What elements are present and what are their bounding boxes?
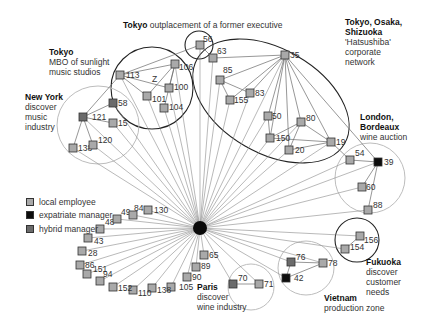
node-100: 100 bbox=[165, 82, 188, 92]
local-node-icon bbox=[113, 215, 121, 223]
node-106: 106 bbox=[171, 60, 193, 72]
local-node-icon bbox=[255, 280, 263, 288]
node-152: 152 bbox=[109, 283, 132, 293]
annotation-place: Bordeaux bbox=[360, 122, 407, 132]
node-label: 63 bbox=[217, 46, 227, 56]
annotation-line: discover bbox=[25, 102, 63, 112]
annotation-line: corporate bbox=[345, 47, 402, 57]
node-label: 43 bbox=[94, 236, 104, 246]
local-node-icon bbox=[266, 134, 274, 142]
node-121: 121 bbox=[79, 112, 106, 122]
local-node-icon bbox=[297, 118, 305, 126]
edge bbox=[83, 75, 120, 117]
annotation-line: music bbox=[25, 112, 63, 122]
node-150: 150 bbox=[266, 133, 290, 143]
edge bbox=[200, 58, 213, 228]
annotation-line: discover bbox=[366, 267, 401, 277]
local-node-icon bbox=[89, 141, 97, 149]
node-label: 154 bbox=[350, 242, 364, 252]
node-label: 56 bbox=[203, 34, 213, 44]
node-label: 58 bbox=[118, 98, 128, 108]
node-label: 83 bbox=[255, 88, 265, 98]
local-node-icon bbox=[264, 112, 272, 120]
local-node-icon bbox=[109, 119, 117, 127]
hybrid-node-icon bbox=[287, 258, 295, 266]
expat-node-icon bbox=[374, 158, 382, 166]
local-node-icon bbox=[346, 156, 354, 164]
local-node-icon bbox=[78, 247, 86, 255]
node-label: 155 bbox=[234, 95, 248, 105]
local-node-icon bbox=[143, 92, 151, 100]
edge bbox=[164, 108, 200, 228]
edge bbox=[200, 116, 268, 228]
node-71: 71 bbox=[255, 279, 274, 289]
legend-item-hybrid-manager: hybrid manager bbox=[26, 222, 112, 236]
annotation-vietnam: Vietnam production zone bbox=[324, 293, 385, 313]
node-label: 90 bbox=[192, 272, 202, 282]
node-19: 19 bbox=[327, 137, 346, 147]
edge bbox=[100, 228, 200, 229]
annotation-tokyo-mbo: Tokyo MBO of sunlight music studios bbox=[49, 47, 109, 77]
edge bbox=[291, 262, 323, 263]
local-node-icon bbox=[200, 251, 208, 259]
local-node-icon bbox=[69, 144, 77, 152]
annotation-fukuoka: Fukuoka discover customer needs bbox=[366, 257, 401, 297]
annotation-line: discover bbox=[197, 292, 247, 302]
node-label: 39 bbox=[384, 157, 394, 167]
node-label: 110 bbox=[138, 288, 152, 298]
hybrid-node-icon bbox=[109, 99, 117, 107]
local-node-icon bbox=[144, 206, 152, 214]
annotation-place: Tokyo bbox=[49, 47, 109, 57]
local-employee-swatch-icon bbox=[26, 198, 34, 206]
cluster-z-label: Z bbox=[152, 74, 157, 84]
annotation-place: Fukuoka bbox=[366, 257, 401, 267]
local-node-icon bbox=[209, 54, 217, 62]
annotation-tokyo-outplacement: Tokyo outplacement of a former executive bbox=[123, 20, 283, 30]
annotation-line: wine auction bbox=[360, 132, 407, 142]
node-label: 105 bbox=[179, 282, 193, 292]
node-label: 101 bbox=[152, 94, 166, 104]
node-label: 42 bbox=[294, 273, 304, 283]
annotation-text: outplacement of a former executive bbox=[150, 20, 283, 30]
network-edges bbox=[73, 45, 378, 290]
annotation-place: New York bbox=[25, 92, 63, 102]
central-hub-node bbox=[193, 221, 207, 235]
expat-node-icon bbox=[282, 274, 290, 282]
node-label: 28 bbox=[88, 248, 98, 258]
node-20: 20 bbox=[285, 145, 305, 155]
annotation-place: Vietnam bbox=[324, 293, 385, 303]
annotation-place: Paris bbox=[197, 282, 247, 292]
node-49: 49 bbox=[113, 207, 131, 223]
annotation-place: Tokyo bbox=[123, 20, 147, 30]
local-node-icon bbox=[183, 273, 191, 281]
local-node-icon bbox=[192, 263, 200, 271]
node-label: 86 bbox=[85, 260, 95, 270]
node-label: 152 bbox=[118, 283, 132, 293]
node-89: 89 bbox=[192, 261, 211, 271]
edge bbox=[301, 122, 331, 142]
node-113: 113 bbox=[116, 70, 140, 80]
hybrid-manager-swatch-icon bbox=[26, 225, 34, 233]
local-node-icon bbox=[319, 259, 327, 267]
node-155: 155 bbox=[226, 95, 248, 105]
annotation-place: London, bbox=[360, 112, 407, 122]
local-node-icon bbox=[327, 138, 335, 146]
node-label: 85 bbox=[223, 65, 233, 75]
node-label: 151 bbox=[93, 264, 107, 274]
local-node-icon bbox=[76, 261, 84, 269]
node-28: 28 bbox=[78, 247, 98, 258]
annotation-hatsushiba: Tokyo, Osaka, Shizuoka 'Hatsushiba' corp… bbox=[345, 17, 402, 67]
region-vietnam bbox=[278, 241, 334, 295]
local-node-icon bbox=[109, 283, 117, 291]
node-label: 150 bbox=[276, 133, 290, 143]
node-label: 80 bbox=[306, 113, 316, 123]
node-label: 78 bbox=[328, 258, 338, 268]
node-label: 84 bbox=[134, 203, 144, 213]
node-85: 85 bbox=[216, 65, 233, 84]
node-label: 19 bbox=[336, 137, 346, 147]
node-label: 106 bbox=[179, 62, 193, 72]
annotation-line: MBO of sunlight bbox=[49, 57, 109, 67]
node-label: 89 bbox=[201, 261, 211, 271]
node-label: 76 bbox=[296, 252, 306, 262]
local-node-icon bbox=[285, 146, 293, 154]
